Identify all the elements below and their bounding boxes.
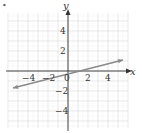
x-tick-label: 2: [85, 73, 91, 83]
y-tick-label: 2: [60, 46, 66, 56]
x-tick-label: 0: [64, 73, 70, 83]
x-tick-label: −4: [22, 73, 36, 83]
y-tick-label: 4: [60, 26, 66, 36]
x-tick-label: 4: [105, 73, 111, 83]
y-tick-label: −4: [55, 106, 69, 116]
problem-marker: •: [2, 1, 7, 10]
coordinate-plane: • −4−202442−2−4 x y: [0, 0, 142, 133]
x-tick-label: −2: [42, 73, 55, 83]
y-axis-label: y: [62, 0, 69, 11]
y-tick-label: −2: [55, 86, 68, 96]
x-axis-label: x: [130, 66, 136, 77]
